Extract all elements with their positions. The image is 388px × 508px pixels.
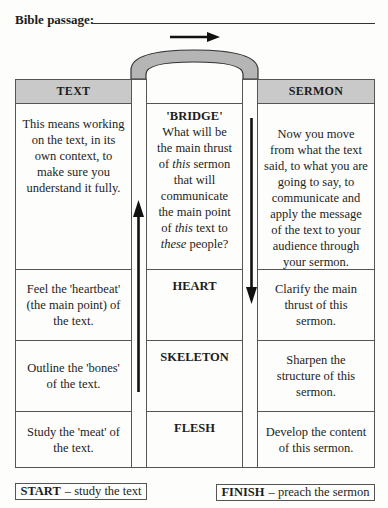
middle-cell-bridge: 'BRIDGE' What will be the main thrust of… (146, 103, 243, 270)
text-cell-flesh: Study the 'meat' of the text. (15, 411, 132, 468)
text-cell-heart: Feel the 'heartbeat' (the main point) of… (15, 269, 132, 341)
bridge-title: 'BRIDGE' (166, 108, 222, 124)
sermon-cell-flesh: Develop the content of this sermon. (257, 411, 375, 468)
sermon-cell-heart: Clarify the main thrust of this sermon. (257, 269, 375, 341)
column-header-sermon: SERMON (257, 79, 375, 104)
bridge-pillar-right (242, 79, 258, 468)
start-box: START– study the text (15, 483, 147, 500)
text-cell-skeleton: Outline the 'bones' of the text. (15, 340, 132, 412)
sermon-cell-skeleton: Sharpen the structure of this sermon. (257, 340, 375, 412)
middle-cell-skeleton: SKELETON (146, 340, 243, 412)
middle-cell-heart: HEART (146, 269, 243, 341)
bridge-question: What will be the main thrust of this ser… (157, 124, 232, 252)
text-cell-bridge: This means working on the text, in its o… (15, 103, 132, 270)
sermon-cell-bridge: Now you move from what the text said, to… (257, 103, 375, 270)
heart-title: HEART (172, 278, 216, 294)
middle-cell-flesh: FLESH (146, 411, 243, 468)
arrow-right-icon (170, 32, 220, 42)
column-header-text: TEXT (15, 79, 132, 104)
finish-box: FINISH– preach the sermon (216, 484, 375, 501)
flesh-title: FLESH (174, 420, 215, 436)
bridge-pillar-left (131, 79, 147, 468)
skeleton-title: SKELETON (160, 349, 229, 365)
